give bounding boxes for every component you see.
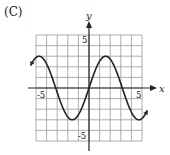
panel-label: (C) [4,5,23,19]
graph-panel: (C)xy-555-5 [0,0,170,155]
x-tick-label: 5 [136,90,141,100]
sine-graph: (C)xy-555-5 [0,0,170,155]
y-axis-label: y [85,10,92,21]
y-axis-arrow-icon [86,21,92,28]
y-tick-label: 5 [82,35,87,45]
x-axis-arrow-icon [150,85,157,91]
x-tick-label: -5 [37,90,45,100]
y-tick-label: -5 [78,131,86,141]
x-axis-label: x [159,83,165,94]
